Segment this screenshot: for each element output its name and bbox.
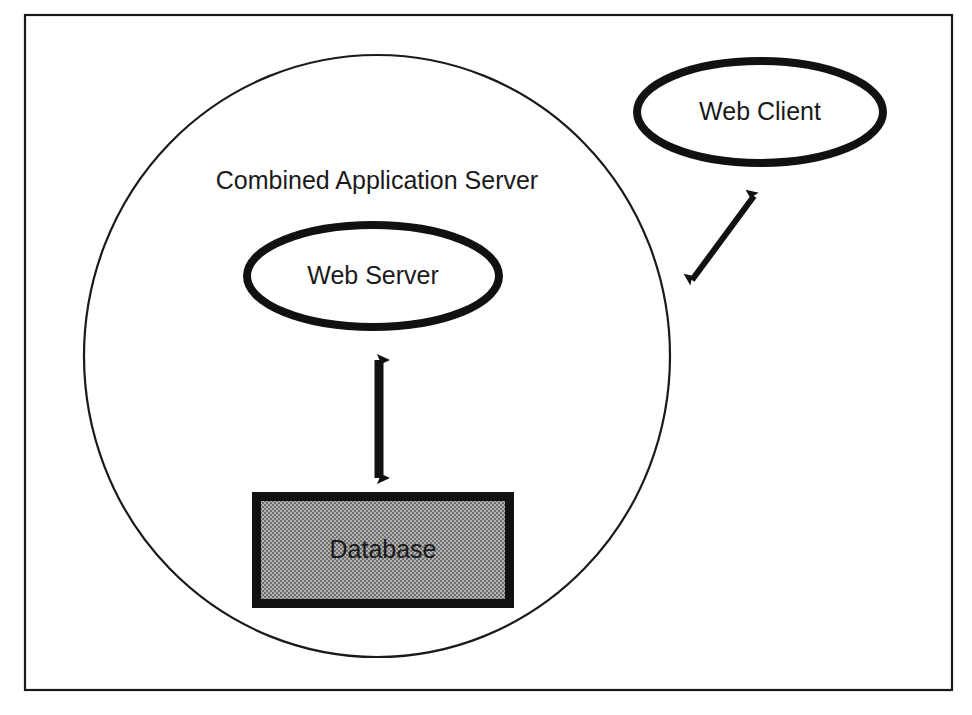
architecture-diagram: Combined Application Server Database Web… [0, 0, 972, 715]
node-web-client: Web Client [637, 61, 883, 163]
database-label: Database [329, 535, 436, 563]
connector-web-client-server [692, 196, 754, 280]
combined-application-server-label: Combined Application Server [216, 166, 538, 194]
node-database: Database [257, 497, 510, 604]
web-server-label: Web Server [307, 261, 439, 289]
web-client-label: Web Client [699, 97, 821, 125]
diagram-canvas: Combined Application Server Database Web… [0, 0, 972, 715]
node-web-server: Web Server [247, 225, 499, 327]
